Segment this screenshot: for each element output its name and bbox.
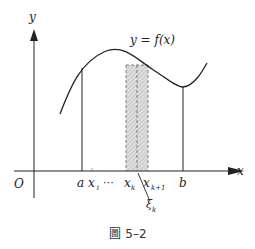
y-axis-arrow-icon [30,29,38,41]
x1-sub: 1 [96,184,100,191]
tick-label-b: b [179,176,187,190]
xk1-sub: k+1 [151,184,166,192]
tick-label-x1: x 1 [88,176,100,191]
x-axis-label: x [237,164,244,178]
xi-sub: k [152,206,156,214]
shaded-strip [126,65,148,171]
tick-label-xk: x k [124,176,135,192]
xk-sub: k [131,184,135,192]
tick-label-a: a [77,176,84,190]
origin-label: O [14,177,24,191]
sample-point-label: ξ k [146,198,156,214]
tick-label-xk1: x k+1 [143,176,166,192]
curve-label: y = f(x) [129,33,175,47]
y-axis-label: y [28,10,36,24]
figure-caption: 圖 5–2 [109,227,146,241]
tick-label-dots: ⋯ [102,176,113,189]
y-axis [30,29,38,198]
riemann-sum-diagram: y x O y = f(x) a x 1 ⋯ x k x k+1 b ξ k 圖… [0,0,255,249]
x1-base: x [88,176,95,190]
xk-base: x [124,176,131,190]
